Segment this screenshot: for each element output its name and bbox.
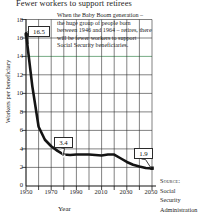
- data-point-2050: [150, 167, 153, 170]
- data-label-1-9: 1.9: [134, 148, 153, 159]
- chart-container: Fewer workers to support retirees Worker…: [0, 0, 203, 218]
- x-tick-marks: [26, 186, 152, 190]
- source-line-2: Social: [160, 186, 197, 196]
- data-label-3-4: 3.4: [54, 137, 73, 148]
- source-line-4: Administration: [160, 205, 197, 215]
- source-line-3: Security: [160, 195, 197, 205]
- source-note: Source: Social Security Administration: [160, 176, 197, 214]
- source-label: Source:: [160, 176, 197, 186]
- data-label-16-5: 16.5: [28, 26, 50, 37]
- chart-annotation: When the Baby Boom generation – the huge…: [57, 12, 152, 50]
